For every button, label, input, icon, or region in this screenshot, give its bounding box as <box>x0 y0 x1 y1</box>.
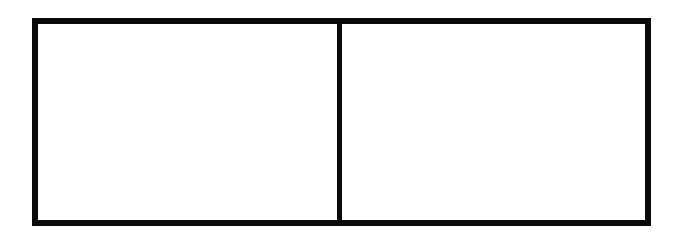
left-panel <box>38 24 337 220</box>
two-panel-frame <box>32 18 651 226</box>
right-panel <box>342 24 645 220</box>
